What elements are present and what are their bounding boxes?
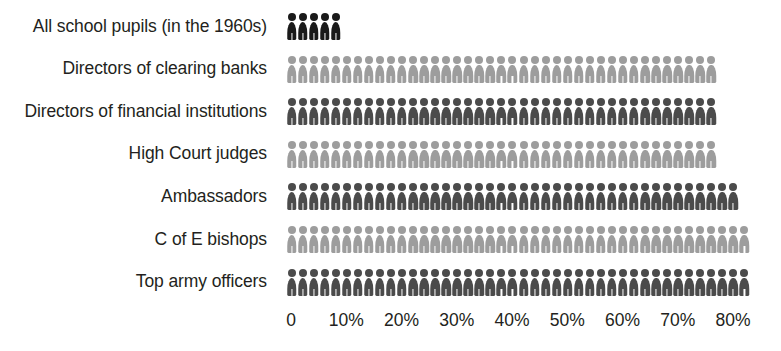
person-icon-head: [542, 183, 550, 191]
person-icon: [496, 140, 507, 168]
person-icon: [507, 182, 518, 210]
person-icon-leg-split: [711, 246, 712, 253]
person-icon-head: [431, 226, 439, 234]
person-icon-leg-split: [379, 203, 380, 210]
person-icon: [695, 140, 706, 168]
person-icon-leg-split: [435, 289, 436, 296]
person-icon-head: [619, 141, 627, 149]
person-icon-head: [321, 13, 329, 21]
person-icon-leg-split: [390, 161, 391, 168]
person-icon: [640, 140, 651, 168]
person-icon-leg-split: [611, 161, 612, 168]
person-icon: [584, 225, 595, 253]
person-icon-leg-split: [545, 246, 546, 253]
person-icon-leg-split: [291, 289, 292, 296]
x-axis-tick-label: 40%: [494, 305, 529, 335]
person-icon-leg-split: [424, 289, 425, 296]
person-icon-head: [531, 98, 539, 106]
person-icon-head: [652, 226, 660, 234]
person-icon-head: [553, 226, 561, 234]
person-icon-leg-split: [313, 289, 314, 296]
person-icon: [562, 97, 573, 125]
person-icon: [419, 268, 430, 296]
person-icon-head: [288, 269, 296, 277]
person-icon-head: [442, 183, 450, 191]
person-icon: [341, 225, 352, 253]
person-icon-head: [696, 183, 704, 191]
person-icon-head: [542, 56, 550, 64]
person-icon-leg-split: [678, 246, 679, 253]
person-icon: [739, 225, 750, 253]
person-icon-head: [442, 141, 450, 149]
person-icon-leg-split: [435, 161, 436, 168]
person-icon-head: [575, 183, 583, 191]
person-icon-head: [707, 183, 715, 191]
person-icon-leg-split: [368, 246, 369, 253]
person-icon: [518, 140, 529, 168]
person-icon-head: [365, 226, 373, 234]
x-axis-ticks: 010%20%30%40%50%60%70%80%: [277, 305, 781, 335]
person-icon-head: [310, 183, 318, 191]
row-pictogram-track: [277, 137, 781, 171]
row-pictogram-figures: [286, 225, 750, 253]
person-icon: [297, 182, 308, 210]
person-icon: [496, 182, 507, 210]
person-icon: [441, 55, 452, 83]
person-icon-leg-split: [633, 246, 634, 253]
person-icon: [330, 12, 341, 40]
person-icon: [441, 140, 452, 168]
person-icon-leg-split: [578, 76, 579, 83]
person-icon: [452, 55, 463, 83]
person-icon: [463, 268, 474, 296]
person-icon-head: [321, 226, 329, 234]
person-icon: [684, 268, 695, 296]
person-icon-head: [641, 226, 649, 234]
person-icon: [529, 268, 540, 296]
person-icon: [617, 140, 628, 168]
person-icon: [584, 97, 595, 125]
person-icon-leg-split: [446, 246, 447, 253]
person-icon-leg-split: [589, 289, 590, 296]
person-icon-head: [707, 56, 715, 64]
person-icon-leg-split: [644, 203, 645, 210]
person-icon: [385, 97, 396, 125]
person-icon: [297, 268, 308, 296]
chart-row: Directors of financial institutions: [0, 94, 781, 128]
person-icon-leg-split: [656, 289, 657, 296]
person-icon: [308, 55, 319, 83]
person-icon-leg-split: [435, 76, 436, 83]
person-icon-head: [365, 98, 373, 106]
person-icon-head: [707, 269, 715, 277]
person-icon: [662, 55, 673, 83]
person-icon-leg-split: [335, 289, 336, 296]
person-icon-head: [608, 183, 616, 191]
person-icon: [352, 182, 363, 210]
person-icon: [485, 140, 496, 168]
person-icon-leg-split: [446, 203, 447, 210]
person-icon: [540, 225, 551, 253]
person-icon-leg-split: [678, 76, 679, 83]
person-icon-leg-split: [600, 289, 601, 296]
person-icon: [485, 182, 496, 210]
person-icon-head: [398, 226, 406, 234]
person-icon-leg-split: [611, 246, 612, 253]
person-icon: [606, 97, 617, 125]
person-icon-head: [508, 183, 516, 191]
person-icon-leg-split: [711, 76, 712, 83]
person-icon-leg-split: [567, 203, 568, 210]
person-icon: [430, 225, 441, 253]
person-icon: [330, 140, 341, 168]
person-icon: [628, 268, 639, 296]
person-icon: [595, 97, 606, 125]
person-icon-head: [740, 269, 748, 277]
person-icon: [595, 225, 606, 253]
person-icon-head: [354, 56, 362, 64]
person-icon-head: [398, 141, 406, 149]
person-icon-leg-split: [313, 203, 314, 210]
person-icon-head: [497, 226, 505, 234]
person-icon-head: [332, 98, 340, 106]
person-icon-leg-split: [667, 289, 668, 296]
person-icon: [352, 268, 363, 296]
person-icon-leg-split: [700, 203, 701, 210]
person-icon-head: [564, 98, 572, 106]
